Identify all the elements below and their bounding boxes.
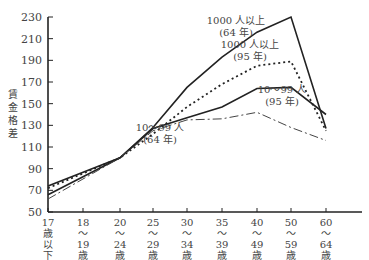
y-tick-label: 170 xyxy=(21,76,42,89)
x-tick-label: 歳 xyxy=(252,250,262,260)
y-tick-label: 70 xyxy=(28,184,42,197)
x-tick-label: 18 xyxy=(77,217,90,228)
x-tick-label: 60 xyxy=(320,217,333,228)
x-tick-label: 17 xyxy=(42,217,55,228)
x-tick-label: 59 xyxy=(285,239,298,250)
series-label: 10〜99 人 xyxy=(258,84,307,95)
series-label: (64 年) xyxy=(143,133,177,145)
x-tick-label: 〜 xyxy=(286,228,296,239)
x-tick-label: 40 xyxy=(251,217,264,228)
y-axis-label: 賃金格差 xyxy=(8,88,18,139)
svg-text:格: 格 xyxy=(8,114,18,126)
series-labels: 1000 人以上(64 年)1000 人以上(95 年)10〜99 人(95 年… xyxy=(136,15,307,145)
x-tick-label: 歳 xyxy=(182,250,192,260)
x-tick-label: 歳 xyxy=(115,250,125,260)
x-tick-label: 以 xyxy=(43,239,53,250)
x-tick-label: 39 xyxy=(216,239,229,250)
x-tick-label: 歳 xyxy=(148,250,158,260)
x-tick-label: 歳 xyxy=(286,250,296,260)
svg-text:金: 金 xyxy=(8,101,18,113)
x-axis-ticks: 17歳以下18〜19歳20〜24歳25〜29歳30〜34歳35〜39歳40〜49… xyxy=(42,208,333,260)
y-tick-label: 210 xyxy=(21,33,42,46)
x-tick-label: 19 xyxy=(77,239,90,250)
series-lines xyxy=(48,17,326,199)
x-tick-label: 35 xyxy=(216,217,229,228)
x-tick-label: 30 xyxy=(181,217,194,228)
wage-gap-line-chart: 507090110130150170190210230 17歳以下18〜19歳2… xyxy=(0,0,369,260)
y-tick-label: 110 xyxy=(21,141,42,154)
svg-text:差: 差 xyxy=(8,127,18,139)
x-tick-label: 歳 xyxy=(321,250,331,260)
x-tick-label: 25 xyxy=(147,217,160,228)
x-tick-label: 49 xyxy=(251,239,264,250)
series-label: 1000 人以上 xyxy=(207,15,266,26)
series-label: 1000 人以上 xyxy=(221,39,280,50)
x-tick-label: 〜 xyxy=(148,228,158,239)
series-label: (64 年) xyxy=(219,26,253,38)
x-tick-label: 29 xyxy=(147,239,160,250)
series-label: (95 年) xyxy=(265,95,299,107)
y-tick-label: 130 xyxy=(21,119,42,132)
x-tick-label: 〜 xyxy=(182,228,192,239)
y-tick-label: 190 xyxy=(21,54,42,67)
y-tick-label: 50 xyxy=(28,206,42,219)
x-tick-label: 24 xyxy=(114,239,127,250)
x-tick-label: 歳 xyxy=(43,228,53,239)
x-tick-label: 下 xyxy=(43,250,53,260)
x-tick-label: 50 xyxy=(285,217,298,228)
series-label: 10〜99 人 xyxy=(136,122,185,133)
x-tick-label: 〜 xyxy=(115,228,125,239)
x-tick-label: 64 xyxy=(320,239,333,250)
x-tick-label: 歳 xyxy=(217,250,227,260)
x-tick-label: 20 xyxy=(114,217,127,228)
y-tick-label: 90 xyxy=(28,163,42,176)
x-tick-label: 〜 xyxy=(217,228,227,239)
series-label: (95 年) xyxy=(233,50,267,62)
x-tick-label: 〜 xyxy=(321,228,331,239)
x-tick-label: 〜 xyxy=(78,228,88,239)
axes xyxy=(48,17,362,212)
y-tick-label: 230 xyxy=(21,11,42,24)
y-tick-label: 150 xyxy=(21,98,42,111)
x-tick-label: 〜 xyxy=(252,228,262,239)
svg-text:賃: 賃 xyxy=(8,88,18,100)
x-tick-label: 歳 xyxy=(78,250,88,260)
x-tick-label: 34 xyxy=(181,239,194,250)
series-line xyxy=(48,112,326,199)
